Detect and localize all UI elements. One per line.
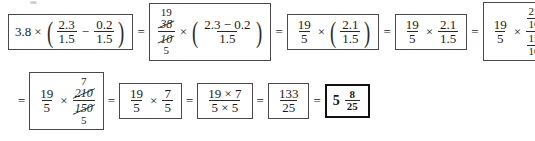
denominator: 1.5 xyxy=(94,31,114,46)
fraction-2-1-over-1-5: 2.1 1.5 xyxy=(340,18,360,46)
step-box-9: 19 × 7 5 × 5 xyxy=(197,83,252,119)
denominator: 5 xyxy=(299,31,310,46)
denominator: 25 xyxy=(280,100,297,115)
fraction-7-over-5: 7 5 xyxy=(162,87,173,115)
numerator: 19 xyxy=(38,87,55,101)
fraction-difference-over-1-5: 2.3 − 0.2 1.5 xyxy=(202,18,252,46)
denominator: 25 xyxy=(345,100,360,112)
upper-denominator: 10 xyxy=(527,18,535,31)
final-answer-box: 5 8 25 xyxy=(325,84,370,118)
fraction-19-over-5: 19 5 xyxy=(296,18,313,46)
worksheet-canvas: 3.8 × ( 2.3 1.5 − 0.2 1.5 ) = xyxy=(0,0,535,141)
mixed-number-answer: 5 8 25 xyxy=(333,89,362,113)
equation-row-2: = 19 5 × 7 210 150 5 = xyxy=(14,72,370,130)
step-box-8: 19 5 × 7 5 xyxy=(119,83,182,119)
times-icon: × xyxy=(318,24,325,40)
step-box-3: 19 5 × ( 2.1 1.5 ) xyxy=(287,14,380,50)
fractional-part: 8 25 xyxy=(345,89,360,113)
step-box-10: 133 25 xyxy=(268,83,310,119)
paren-group-2: ( 2.3 − 0.2 1.5 ) xyxy=(190,18,264,46)
fraction-19-over-5: 19 5 xyxy=(404,18,421,46)
cancel-struck-denominator: 150 xyxy=(73,102,95,114)
step-box-2: 19 38 10 5 × ( 2.3 − 0.2 1.5 ) xyxy=(149,3,272,61)
times-icon: × xyxy=(426,24,433,40)
numerator: 2.3 xyxy=(57,18,77,32)
step-box-7: 19 5 × 7 210 150 5 xyxy=(29,72,103,130)
times-icon: × xyxy=(514,24,521,40)
denominator: 5 xyxy=(407,31,418,46)
numerator: 133 xyxy=(277,87,301,101)
leading-factor: 3.8 xyxy=(15,24,31,40)
cancellation-38-over-10: 19 38 10 5 xyxy=(158,7,175,57)
fraction-19-over-5: 19 5 xyxy=(492,18,509,46)
step-box-1: 3.8 × ( 2.3 1.5 − 0.2 1.5 ) xyxy=(8,14,133,50)
paren-right-icon: ) xyxy=(364,21,370,43)
lower-denominator: 10 xyxy=(527,45,535,58)
fraction-2-1-over-1-5: 2.1 1.5 xyxy=(438,18,458,46)
minus-icon: − xyxy=(82,24,89,40)
equals-sign-6: = xyxy=(18,93,25,109)
step-box-5: 19 5 × 21 10 15 10 xyxy=(483,2,535,61)
fraction-133-over-25: 133 25 xyxy=(277,87,301,115)
numerator: 19 xyxy=(492,18,509,32)
times-icon: × xyxy=(150,93,157,109)
numerator: 8 xyxy=(348,89,358,100)
paren-left-icon: ( xyxy=(192,21,198,43)
numerator: 2.3 − 0.2 xyxy=(202,18,252,32)
upper-numerator: 21 xyxy=(527,6,535,18)
numerator: 7 xyxy=(162,87,173,101)
cancellation-210-over-150: 7 210 150 5 xyxy=(73,76,95,126)
paren-right-icon: ) xyxy=(118,21,124,43)
fraction-19-over-5: 19 5 xyxy=(128,87,145,115)
fraction-0-2-over-1-5: 0.2 1.5 xyxy=(94,18,114,46)
denominator: 5 xyxy=(495,31,506,46)
denominator: 5 × 5 xyxy=(209,100,240,115)
paren-left-icon: ( xyxy=(46,21,52,43)
denominator: 1.5 xyxy=(340,31,360,46)
cancel-struck-denominator: 10 xyxy=(158,33,174,45)
denominator: 5 xyxy=(42,100,53,115)
paren-left-icon: ( xyxy=(330,21,336,43)
equals-sign-3: = xyxy=(383,24,390,40)
numerator: 0.2 xyxy=(94,18,114,32)
denominator: 5 xyxy=(162,100,173,115)
cancel-struck-numerator: 38 xyxy=(158,18,174,30)
numerator: 2.1 xyxy=(340,18,360,32)
times-icon: × xyxy=(34,24,41,40)
fraction-2-3-over-1-5: 2.3 1.5 xyxy=(57,18,77,46)
numerator: 19 xyxy=(128,87,145,101)
numerator: 19 xyxy=(296,18,313,32)
numerator: 2.1 xyxy=(438,18,458,32)
equals-sign-10: = xyxy=(313,93,320,109)
denominator: 1.5 xyxy=(217,31,237,46)
numerator: 19 xyxy=(404,18,421,32)
paren-right-icon: ) xyxy=(256,21,262,43)
whole-part: 5 xyxy=(333,93,340,109)
times-icon: × xyxy=(60,93,67,109)
step-box-4: 19 5 × 2.1 1.5 xyxy=(395,14,468,50)
cancel-struck-numerator: 210 xyxy=(73,87,95,99)
denominator: 1.5 xyxy=(438,31,458,46)
paren-group-1: ( 2.3 1.5 − 0.2 1.5 ) xyxy=(45,18,127,46)
denominator: 1.5 xyxy=(57,31,77,46)
equals-sign-8: = xyxy=(186,93,193,109)
cancel-replacement-below: 5 xyxy=(164,45,170,56)
numerator: 19 × 7 xyxy=(206,87,243,101)
equals-sign-4: = xyxy=(471,24,478,40)
times-icon: × xyxy=(180,24,187,40)
equation-row-1: 3.8 × ( 2.3 1.5 − 0.2 1.5 ) = xyxy=(8,2,535,61)
cancel-replacement-below: 5 xyxy=(81,115,87,126)
equals-sign-9: = xyxy=(257,93,264,109)
lower-numerator: 15 xyxy=(527,33,535,45)
equals-sign-2: = xyxy=(275,24,282,40)
equals-sign-1: = xyxy=(137,24,144,40)
fraction-19-over-5: 19 5 xyxy=(38,87,55,115)
denominator: 5 xyxy=(131,100,142,115)
paren-group-3: ( 2.1 1.5 ) xyxy=(328,18,372,46)
complex-fraction: 21 10 15 10 xyxy=(526,6,535,57)
equals-sign-7: = xyxy=(108,93,115,109)
fraction-19x7-over-5x5: 19 × 7 5 × 5 xyxy=(206,87,243,115)
